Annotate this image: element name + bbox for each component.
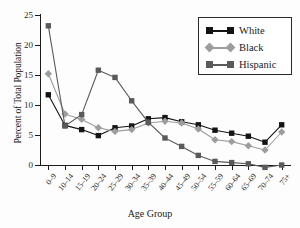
legend-item-hispanic: Hispanic	[205, 56, 291, 73]
y-axis-tick-label: 20	[14, 40, 33, 50]
x-axis-tick-label: 10–14	[56, 172, 75, 193]
y-axis-tick	[35, 135, 40, 136]
x-axis-tick-label: 15–19	[73, 172, 92, 193]
x-axis-tick-label: 50–54	[190, 172, 209, 193]
x-axis-tick	[48, 166, 49, 170]
legend-key-black	[205, 42, 235, 54]
y-axis-tick-label: 0	[14, 160, 33, 170]
x-axis-tick	[132, 166, 133, 170]
x-axis-tick-label: 60–64	[223, 172, 242, 193]
x-axis-tick	[215, 166, 216, 170]
x-axis-title: Age Group	[0, 208, 300, 219]
y-axis-tick	[35, 45, 40, 46]
y-axis-tick-label: 5	[14, 130, 33, 140]
x-axis-tick	[82, 166, 83, 170]
x-axis-tick	[115, 166, 116, 170]
y-axis-line	[40, 14, 41, 166]
x-axis-tick	[182, 166, 183, 170]
legend-label-hispanic: Hispanic	[235, 59, 276, 70]
legend-key-white	[205, 25, 235, 37]
y-axis-tick-label: 10	[14, 100, 33, 110]
x-axis-tick	[148, 166, 149, 170]
x-axis-tick	[98, 166, 99, 170]
x-axis-tick-label: 40–44	[156, 172, 175, 193]
x-axis-tick	[282, 166, 283, 170]
legend-item-black: Black	[205, 39, 291, 56]
x-axis-tick	[232, 166, 233, 170]
x-axis-tick	[165, 166, 166, 170]
legend-label-black: Black	[235, 42, 264, 53]
y-axis-tick-label: 25	[14, 10, 33, 20]
x-axis-tick	[198, 166, 199, 170]
x-axis-tick-label: 25–29	[106, 172, 125, 193]
x-axis-tick-label: 70–74	[256, 172, 275, 193]
x-axis-tick-label: 45–49	[173, 172, 192, 193]
x-axis-tick	[65, 166, 66, 170]
x-axis-tick-label: 20–24	[90, 172, 109, 193]
legend-label-white: White	[235, 25, 265, 36]
x-axis-tick-label: 55–59	[206, 172, 225, 193]
x-axis-tick-label: 75+	[277, 172, 291, 187]
chart-figure: Percent of Total Population 0510152025 0…	[0, 0, 300, 228]
x-axis-tick-label: 35–39	[140, 172, 159, 193]
y-axis-tick-label: 15	[14, 70, 33, 80]
y-axis-tick	[35, 15, 40, 16]
legend-item-white: White	[205, 22, 291, 39]
y-axis-tick	[35, 105, 40, 106]
x-axis-tick	[248, 166, 249, 170]
x-axis-tick-label: 65–69	[240, 172, 259, 193]
x-axis-tick	[265, 166, 266, 170]
y-axis-tick	[35, 75, 40, 76]
x-axis-tick-label: 30–34	[123, 172, 142, 193]
legend: White Black Hispanic	[198, 17, 292, 75]
x-axis-tick-label: 0–9	[44, 172, 58, 187]
y-axis-tick	[35, 165, 40, 166]
legend-key-hispanic	[205, 59, 235, 71]
